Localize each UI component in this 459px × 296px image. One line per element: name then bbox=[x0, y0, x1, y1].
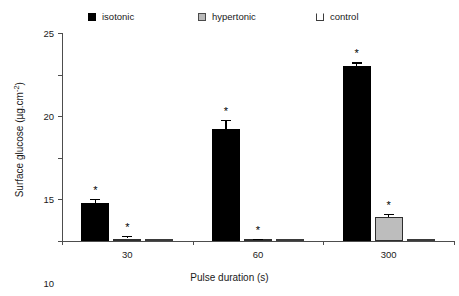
y-axis-title-main: Surface glucose (µg.cm bbox=[15, 92, 26, 197]
y-axis-tick-label: 20 bbox=[43, 111, 54, 122]
x-axis-title: Pulse duration (s) bbox=[0, 272, 459, 283]
y-axis-tick: 15 bbox=[58, 116, 62, 117]
y-axis-tick: 5 bbox=[58, 199, 62, 200]
error-bar-cap-hypertonic-300 bbox=[384, 214, 394, 215]
legend-label-isotonic: isotonic bbox=[102, 12, 134, 22]
legend-item-control: control bbox=[316, 10, 359, 24]
x-axis-tick-label: 300 bbox=[381, 249, 397, 260]
x-axis-tick-label: 30 bbox=[122, 249, 133, 260]
bar-hypertonic-300 bbox=[375, 217, 403, 241]
legend-label-control: control bbox=[330, 12, 359, 22]
error-bar-cap-hypertonic-30 bbox=[122, 236, 132, 237]
bar-hypertonic-30 bbox=[113, 239, 141, 241]
significance-marker-isotonic-60: * bbox=[224, 106, 228, 117]
y-axis-tick: 10 bbox=[58, 158, 62, 159]
significance-marker-isotonic-30: * bbox=[93, 185, 97, 196]
y-axis-title: Surface glucose (µg.cm-2) bbox=[12, 50, 26, 230]
error-bar-cap-isotonic-30 bbox=[90, 199, 100, 200]
chart-legend: isotonic hypertonic control bbox=[88, 10, 388, 28]
legend-label-hypertonic: hypertonic bbox=[212, 12, 256, 22]
legend-item-isotonic: isotonic bbox=[88, 10, 134, 24]
y-axis-tick-label: 25 bbox=[43, 28, 54, 39]
bar-control-60 bbox=[276, 239, 304, 241]
x-axis-line bbox=[62, 241, 454, 242]
filled-black-square-icon bbox=[88, 13, 96, 21]
x-axis-tick bbox=[62, 241, 63, 245]
x-axis-tick-label: 60 bbox=[253, 249, 264, 260]
x-axis-tick bbox=[193, 241, 194, 245]
legend-item-hypertonic: hypertonic bbox=[198, 10, 256, 24]
bar-chart-figure: isotonic hypertonic control Surface gluc… bbox=[0, 0, 459, 296]
y-axis-tick: 20 bbox=[58, 75, 62, 76]
plot-area: 0510152025 3060300 ****** bbox=[62, 33, 454, 241]
significance-marker-hypertonic-300: * bbox=[387, 200, 391, 211]
y-axis-title-close: ) bbox=[15, 82, 26, 85]
error-bar-cap-hypertonic-60 bbox=[253, 239, 263, 240]
open-square-icon bbox=[316, 13, 324, 21]
filled-gray-square-icon bbox=[198, 13, 206, 21]
error-bar-cap-isotonic-60 bbox=[221, 120, 231, 121]
y-axis-line bbox=[62, 33, 63, 242]
bar-control-300 bbox=[407, 239, 435, 241]
error-bar-cap-isotonic-300 bbox=[352, 62, 362, 63]
bar-isotonic-60 bbox=[212, 129, 240, 241]
significance-marker-isotonic-300: * bbox=[355, 48, 359, 59]
x-axis-tick bbox=[323, 241, 324, 245]
bar-control-30 bbox=[145, 239, 173, 241]
bar-isotonic-30 bbox=[81, 203, 109, 241]
y-axis-title-exponent: -2 bbox=[12, 86, 21, 93]
y-axis-tick: 25 bbox=[58, 33, 62, 34]
y-axis-tick-label: 15 bbox=[43, 194, 54, 205]
significance-marker-hypertonic-60: * bbox=[256, 225, 260, 236]
x-axis-tick bbox=[454, 241, 455, 245]
bar-isotonic-300 bbox=[343, 66, 371, 241]
significance-marker-hypertonic-30: * bbox=[125, 222, 129, 233]
